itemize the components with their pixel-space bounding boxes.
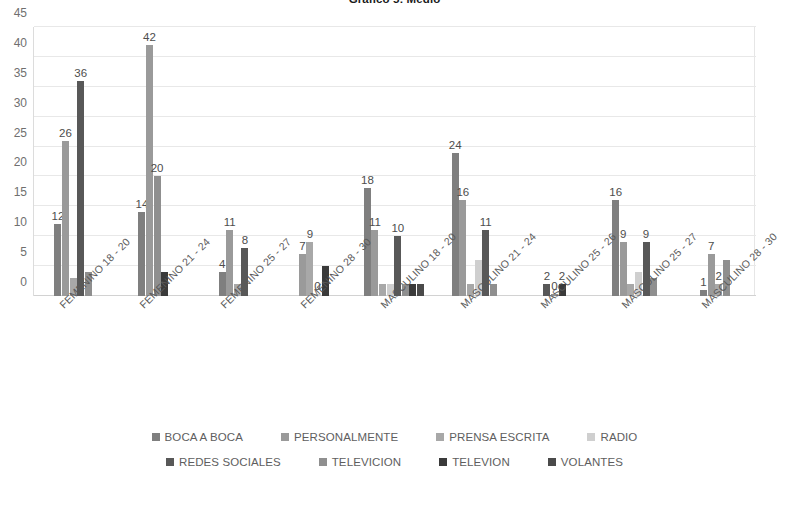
legend-label: RADIO [600,431,637,443]
legend-label: PERSONALMENTE [294,431,398,443]
legend-item[interactable]: RADIO [587,431,637,443]
legend-row: BOCA A BOCAPERSONALMENTEPRENSA ESCRITARA… [0,424,789,449]
bar-group: 172 [700,27,730,296]
bar-group: 4118 [219,27,249,296]
bar [620,242,627,296]
chart-legend: BOCA A BOCAPERSONALMENTEPRENSA ESCRITARA… [0,424,789,474]
y-axis-tick-label: 35 [14,66,27,80]
bar-value-label: 20 [151,162,164,174]
bar [62,141,69,296]
y-axis-tick-label: 0 [20,275,27,289]
bar-value-label: 9 [620,228,626,240]
legend-swatch-icon [281,433,289,441]
bar [452,153,459,296]
chart-title: Gráfico 5: Medio [0,0,789,7]
legend-label: BOCA A BOCA [165,431,243,443]
bar-value-label: 24 [449,139,462,151]
legend-swatch-icon [439,458,447,466]
legend-label: REDES SOCIALES [179,456,281,468]
legend-item[interactable]: VOLANTES [548,456,623,468]
bar [54,224,61,296]
y-axis-tick-label: 45 [14,6,27,20]
bar [77,81,84,296]
x-axis-labels: FEMENINO 18 - 20FEMENINO 21 - 24FEMENINO… [33,296,755,406]
bar-value-label: 26 [59,127,72,139]
y-axis-tick-label: 30 [14,96,27,110]
bar-chart: Gráfico 5: Medio 051015202530354045 1226… [0,0,789,512]
bar-value-label: 18 [361,174,374,186]
bar-group: 241611 [452,27,497,296]
bar-value-label: 42 [143,31,156,43]
legend-row: REDES SOCIALESTELEVICIONTELEVIONVOLANTES [0,449,789,474]
bar [219,272,226,296]
legend-label: TELEVICION [332,456,401,468]
bar [612,200,619,296]
legend-item[interactable]: REDES SOCIALES [166,456,281,468]
bar-value-label: 10 [391,222,404,234]
legend-item[interactable]: TELEVION [439,456,510,468]
bar-value-label: 11 [480,216,492,228]
bar-value-label: 16 [456,186,469,198]
bar-value-label: 1 [700,276,706,288]
bar-value-label: 11 [369,216,381,228]
bar-group: 181110 [364,27,424,296]
bar-value-label: 9 [307,228,313,240]
legend-swatch-icon [152,433,160,441]
legend-label: TELEVION [452,456,510,468]
y-axis-tick-label: 10 [14,215,27,229]
bar-group: 144220 [138,27,168,296]
legend-item[interactable]: PRENSA ESCRITA [436,431,549,443]
bar [299,254,306,296]
y-axis-tick-label: 15 [14,185,27,199]
bar-group: 1699 [612,27,657,296]
y-axis-tick-label: 40 [14,36,27,50]
legend-item[interactable]: PERSONALMENTE [281,431,398,443]
legend-swatch-icon [166,458,174,466]
bar-group: 122636 [54,27,91,296]
bar-value-label: 11 [224,216,236,228]
bar-value-label: 2 [544,270,550,282]
legend-swatch-icon [436,433,444,441]
y-axis-tick-label: 25 [14,126,27,140]
bar-value-label: 9 [643,228,649,240]
legend-label: PRENSA ESCRITA [449,431,549,443]
bar-value-label: 36 [74,67,87,79]
bar-value-label: 4 [219,258,225,270]
legend-swatch-icon [548,458,556,466]
bar [371,230,378,296]
legend-swatch-icon [587,433,595,441]
bar-value-label: 8 [242,234,248,246]
legend-item[interactable]: BOCA A BOCA [152,431,243,443]
bar-value-label: 16 [609,186,622,198]
bar-group: 202 [543,27,565,296]
bar-value-label: 7 [708,240,714,252]
bar-group: 790 [299,27,329,296]
y-axis-tick-label: 5 [20,245,27,259]
bar [417,284,424,296]
bars-layer: 1226361442204118790181110241611202169917… [33,27,755,296]
legend-label: VOLANTES [561,456,623,468]
bar [138,212,145,296]
bar [459,200,466,296]
bar-value-label: 7 [299,240,305,252]
legend-swatch-icon [319,458,327,466]
y-axis-tick-label: 20 [14,155,27,169]
legend-item[interactable]: TELEVICION [319,456,401,468]
